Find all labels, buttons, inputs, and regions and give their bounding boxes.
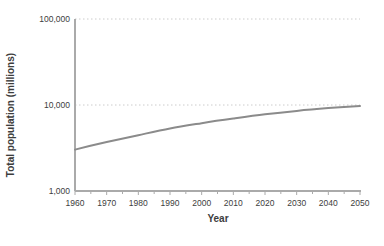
x-tick-label-1970: 1970 (97, 198, 116, 208)
x-axis-title: Year (207, 213, 228, 224)
x-tick-label-2030: 2030 (287, 198, 306, 208)
x-tick-label-2050: 2050 (351, 198, 370, 208)
x-tick-label-2020: 2020 (256, 198, 275, 208)
x-tick-label-1990: 1990 (161, 198, 180, 208)
y-tick-label-100000: 100,000 (39, 14, 70, 24)
x-tick-label-2010: 2010 (224, 198, 243, 208)
gridlines-group (75, 19, 360, 105)
population-chart-figure: 1,00010,000100,0001960197019801990200020… (0, 0, 384, 246)
axes-group (75, 19, 361, 191)
x-tick-label-1980: 1980 (129, 198, 148, 208)
chart-svg: 1,00010,000100,0001960197019801990200020… (0, 0, 384, 246)
x-tick-label-1960: 1960 (66, 198, 85, 208)
tick-labels-group: 1,00010,000100,0001960197019801990200020… (39, 14, 369, 208)
y-tick-label-1000: 1,000 (49, 186, 71, 196)
x-tick-label-2040: 2040 (319, 198, 338, 208)
series-group (75, 106, 360, 150)
y-axis-title: Total population (millions) (5, 53, 16, 177)
y-tick-label-10000: 10,000 (44, 100, 70, 110)
x-tick-label-2000: 2000 (192, 198, 211, 208)
population-line-series (75, 106, 360, 150)
